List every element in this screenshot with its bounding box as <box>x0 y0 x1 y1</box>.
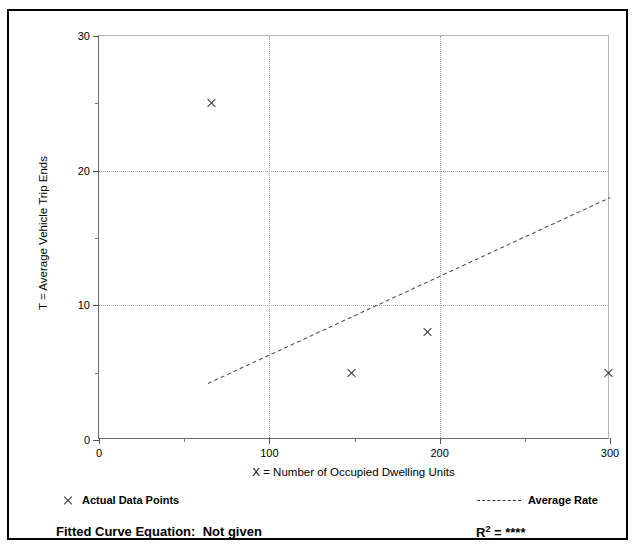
chart-legend: Actual Data Points Average Rate <box>9 491 630 513</box>
y-axis-title: T = Average Vehicle Trip Ends <box>37 156 49 310</box>
y-tick-label-30: 30 <box>78 31 90 42</box>
x-marker-icon <box>62 495 73 506</box>
data-point-marker <box>346 367 357 378</box>
x-tick-label-100: 100 <box>260 448 278 459</box>
r-squared-number: **** <box>505 525 525 540</box>
legend-average-rate-label: Average Rate <box>528 494 598 506</box>
fitted-curve-equation-value: Not given <box>203 524 262 539</box>
x-axis-title: X = Number of Occupied Dwelling Units <box>98 466 609 478</box>
r-squared-label: R <box>476 525 485 540</box>
plot-region: T = Average Vehicle Trip Ends X = Number… <box>9 11 630 481</box>
y-tick-label-10: 10 <box>78 300 90 311</box>
y-tick-label-0: 0 <box>84 435 90 446</box>
x-tick-label-0: 0 <box>96 448 102 459</box>
chart-page-frame: T = Average Vehicle Trip Ends X = Number… <box>7 9 628 540</box>
chart-footer: Fitted Curve Equation: Not given R2 = **… <box>9 523 630 545</box>
legend-actual-data-points-label: Actual Data Points <box>82 494 179 506</box>
r-squared-value: R2 = **** <box>476 524 525 540</box>
dashed-line-icon <box>477 500 521 501</box>
r-squared-equals: = <box>490 525 505 540</box>
plot-area: 30 20 10 0 0 100 200 300 <box>98 35 609 439</box>
y-tick-label-20: 20 <box>78 165 90 176</box>
data-point-marker <box>206 98 217 109</box>
x-tick-label-200: 200 <box>430 448 448 459</box>
data-point-marker <box>422 327 433 338</box>
fitted-curve-equation-label: Fitted Curve Equation: <box>56 524 195 539</box>
data-point-marker <box>603 367 614 378</box>
fitted-curve-equation: Fitted Curve Equation: Not given <box>56 524 262 539</box>
x-tick-300 <box>610 438 611 444</box>
x-tick-label-300: 300 <box>601 448 619 459</box>
average-rate-trendline <box>99 36 610 440</box>
